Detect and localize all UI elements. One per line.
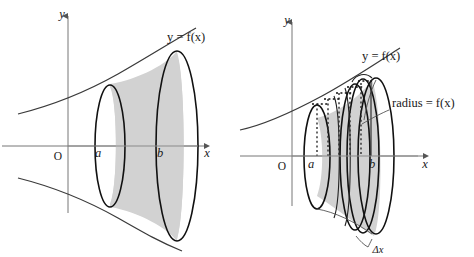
- left-curve-label: y = f(x): [167, 30, 205, 44]
- right-bound-a-label: a: [308, 157, 314, 171]
- radius-label: radius = f(x): [392, 96, 455, 110]
- right-slab-top-cap: [352, 75, 372, 82]
- left-y-axis-label: y: [57, 7, 65, 21]
- right-x-axis-label: x: [421, 157, 428, 171]
- left-bound-a-label: a: [95, 146, 101, 160]
- delta-x-leader-line-2: [356, 236, 368, 247]
- panel-right: O a b x y y = f(x) radius = f(x) Δx: [240, 13, 455, 255]
- left-origin-label: O: [54, 150, 62, 162]
- right-curve-label: y = f(x): [362, 49, 400, 63]
- right-y-axis-label: y: [282, 13, 290, 27]
- delta-x-label: Δx: [372, 244, 384, 255]
- figure-root: O a b x y y = f(x): [0, 0, 474, 257]
- right-origin-label: O: [278, 160, 286, 172]
- panel-left: O a b x y y = f(x): [2, 7, 210, 251]
- left-x-axis-label: x: [203, 146, 210, 160]
- calculus-diagram: O a b x y y = f(x): [0, 0, 474, 257]
- left-bound-b-label: b: [157, 146, 163, 160]
- right-bound-b-label: b: [369, 157, 375, 171]
- delta-x-leader-line: [368, 239, 372, 247]
